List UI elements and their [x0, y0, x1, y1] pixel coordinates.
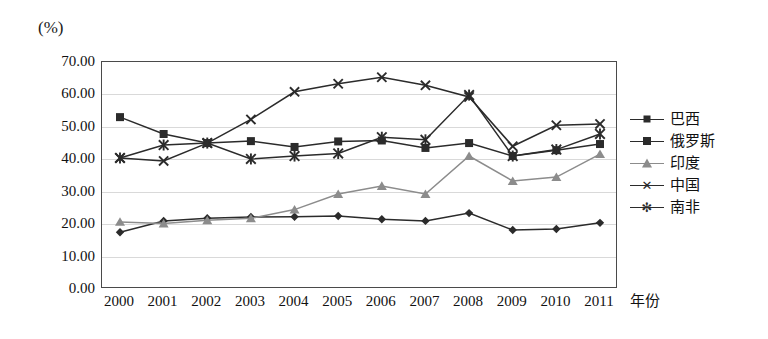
x-axis-tick-label: 2002 [191, 292, 221, 310]
legend-item-diamond[interactable]: 巴西 [630, 108, 760, 130]
series-line [120, 154, 600, 223]
data-point-cross [508, 142, 517, 151]
x-axis-label: 年份 [630, 292, 660, 310]
data-point-diamond [334, 212, 342, 220]
series-line [120, 213, 600, 232]
data-point-diamond [596, 219, 604, 227]
y-axis-tick-labels: 70.0060.0050.0040.0030.0020.0010.000.00 [17, 61, 95, 288]
plot-area [101, 61, 617, 288]
y-axis-tick-label: 70.00 [23, 54, 95, 69]
x-axis-tick-label: 2011 [584, 292, 613, 310]
y-axis-tick-label: 30.00 [23, 184, 95, 199]
legend-swatch-icon [630, 155, 664, 171]
legend-marker-star-icon: ✻ [642, 201, 653, 214]
data-point-triangle [377, 181, 387, 190]
data-point-star [464, 90, 474, 101]
y-axis-tick-label: 10.00 [23, 249, 95, 264]
y-axis-tick-label: 50.00 [23, 119, 95, 134]
y-axis-tick-label: 0.00 [23, 281, 95, 296]
legend-swatch-icon [630, 133, 664, 149]
legend-item-triangle[interactable]: 印度 [630, 152, 760, 174]
data-point-square [160, 130, 168, 138]
legend-marker-cross-icon: ✕ [642, 179, 653, 192]
data-point-square [465, 139, 473, 147]
data-point-diamond [378, 215, 386, 223]
series-cross [115, 73, 604, 166]
legend-marker-square-icon [643, 137, 651, 145]
x-axis-tick-label: 2008 [453, 292, 483, 310]
data-point-diamond [552, 225, 560, 233]
legend-item-cross[interactable]: ✕中国 [630, 174, 760, 196]
data-point-diamond [509, 226, 517, 234]
x-axis-tick-label: 2004 [279, 292, 309, 310]
data-point-diamond [116, 228, 124, 236]
x-axis-tick-label: 2010 [540, 292, 570, 310]
data-point-triangle [464, 151, 474, 160]
data-point-square [596, 140, 604, 148]
x-axis-tick-label: 2006 [366, 292, 396, 310]
y-axis-tick-label: 20.00 [23, 216, 95, 231]
series-line [120, 117, 600, 156]
series-line [120, 77, 600, 161]
x-axis-tick-label: 2007 [410, 292, 440, 310]
series-layer [102, 62, 618, 289]
data-point-square [334, 137, 342, 145]
legend-item-star[interactable]: ✻南非 [630, 196, 760, 218]
data-point-triangle [290, 205, 300, 214]
data-point-star [595, 128, 605, 139]
x-axis-tick-label: 2009 [497, 292, 527, 310]
y-axis-tick-label: 60.00 [23, 86, 95, 101]
legend-label: 南非 [670, 199, 700, 215]
legend-marker-diamond-icon [644, 116, 651, 123]
x-axis-tick-label: 2005 [322, 292, 352, 310]
data-point-diamond [290, 212, 298, 220]
data-point-diamond [465, 209, 473, 217]
legend-swatch-icon: ✕ [630, 177, 664, 193]
chart-legend: 巴西俄罗斯印度✕中国✻南非 [630, 108, 760, 218]
legend-marker-triangle-icon [642, 159, 652, 168]
legend-swatch-icon [630, 111, 664, 127]
legend-swatch-icon: ✻ [630, 199, 664, 215]
chart-container: (%) 70.0060.0050.0040.0030.0020.0010.000… [0, 0, 768, 339]
data-point-diamond [421, 217, 429, 225]
legend-label: 俄罗斯 [670, 133, 715, 149]
legend-label: 印度 [670, 155, 700, 171]
x-axis-tick-label: 2000 [104, 292, 134, 310]
series-triangle [115, 149, 605, 227]
x-axis-tick-labels: 2000200120022003200420052006200720082009… [101, 292, 617, 314]
legend-label: 巴西 [670, 111, 700, 127]
data-point-square [247, 137, 255, 145]
x-axis-tick-label: 2001 [148, 292, 178, 310]
y-axis-unit-label: (%) [38, 18, 63, 38]
y-axis-tick-label: 40.00 [23, 151, 95, 166]
legend-item-square[interactable]: 俄罗斯 [630, 130, 760, 152]
legend-label: 中国 [670, 177, 700, 193]
series-diamond [116, 209, 604, 237]
data-point-cross [246, 115, 255, 124]
data-point-triangle [595, 149, 605, 158]
data-point-square [116, 113, 124, 121]
series-star [115, 90, 605, 165]
data-point-square [291, 143, 299, 151]
x-axis-tick-label: 2003 [235, 292, 265, 310]
